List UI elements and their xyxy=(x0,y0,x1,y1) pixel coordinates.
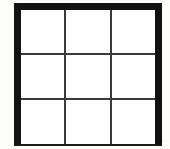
grid-outer-frame xyxy=(14,3,162,146)
grid-cell-r1c3[interactable] xyxy=(112,10,155,53)
grid-cell-r3c3[interactable] xyxy=(112,100,155,144)
grid-cell-r3c2[interactable] xyxy=(66,100,110,144)
grid-cell-r1c1[interactable] xyxy=(21,10,64,53)
grid-cell-r3c1[interactable] xyxy=(21,100,64,144)
grid-cell-r2c2[interactable] xyxy=(66,55,110,98)
grid-inner-area xyxy=(21,10,155,144)
grid-figure-canvas xyxy=(0,0,170,149)
grid-cell-r2c1[interactable] xyxy=(21,55,64,98)
grid-cell-r1c2[interactable] xyxy=(66,10,110,53)
grid-cell-r2c3[interactable] xyxy=(112,55,155,98)
